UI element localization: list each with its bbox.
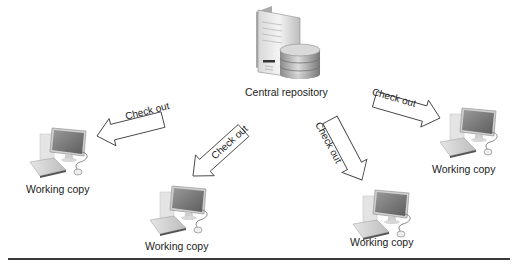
diagram-canvas: Central repository Check out Check out C… bbox=[0, 0, 515, 270]
central-repository-label: Central repository bbox=[245, 86, 328, 98]
working-copy-label-bottom-left: Working copy bbox=[145, 240, 208, 252]
working-copy-label-bottom-right: Working copy bbox=[350, 236, 413, 248]
bottom-divider bbox=[8, 258, 510, 260]
desktop-computer-icon bbox=[440, 108, 497, 158]
desktop-computer-icon bbox=[150, 186, 207, 236]
diagram-graphics bbox=[0, 0, 515, 270]
desktop-computer-icon bbox=[353, 190, 410, 240]
working-copy-label-right: Working copy bbox=[432, 163, 495, 175]
desktop-computer-icon bbox=[30, 128, 87, 178]
server-database-icon bbox=[256, 6, 320, 79]
working-copy-label-left: Working copy bbox=[26, 183, 89, 195]
